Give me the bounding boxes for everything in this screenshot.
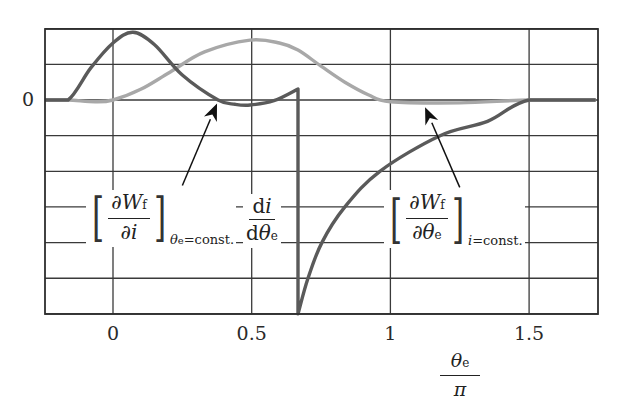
annotation-di-dtheta: didθe xyxy=(243,194,281,248)
arrow-shaft xyxy=(182,119,210,185)
bracket-left: [ xyxy=(390,193,402,245)
arrowhead-icon xyxy=(204,104,217,122)
arrowhead-icon xyxy=(425,107,438,125)
y-tick-zero: 0 xyxy=(22,88,34,110)
x-tick-label: 1.5 xyxy=(514,322,544,344)
x-tick-label: 0.5 xyxy=(237,322,267,344)
bracket-right: ] xyxy=(154,191,166,243)
annotation-dWf-dtheta: [∂Wf∂θe]i=const. xyxy=(384,190,525,248)
sub-f: f xyxy=(142,198,146,212)
fraction: ∂Wf∂i xyxy=(108,190,149,244)
subscript-condition: i=const. xyxy=(468,233,523,248)
subscript-condition: θe=const. xyxy=(170,232,234,247)
var-W: W xyxy=(122,190,143,214)
annotation-dWf-di: [∂Wf∂i]θe=const. xyxy=(86,190,236,247)
fraction: didθe xyxy=(246,194,278,248)
partial-symbol: ∂ xyxy=(121,220,131,244)
x-axis-label: θe π xyxy=(440,348,480,402)
bracket-left: [ xyxy=(92,191,104,243)
x-label-numerator: θe xyxy=(440,348,480,376)
series-group xyxy=(45,32,596,314)
var-i: i xyxy=(131,220,137,244)
x-tick-label: 1 xyxy=(384,322,396,344)
partial-symbol: ∂ xyxy=(111,190,121,214)
bracket-right: ] xyxy=(452,193,464,245)
series-dark-curve xyxy=(45,32,596,314)
series-light-curve xyxy=(45,40,596,103)
x-tick-label: 0 xyxy=(107,322,119,344)
x-label-denominator: π xyxy=(440,376,480,402)
grid-lines xyxy=(45,29,598,314)
fraction: ∂Wf∂θe xyxy=(406,190,447,247)
